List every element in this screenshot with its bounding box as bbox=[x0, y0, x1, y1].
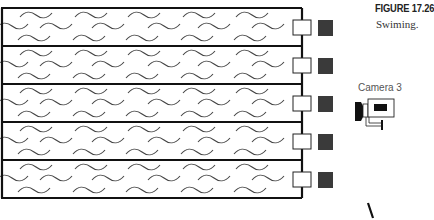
starting-block-4 bbox=[293, 134, 333, 150]
starting-block-5 bbox=[293, 172, 333, 188]
starting-block-2 bbox=[293, 58, 333, 74]
partial-line-mark bbox=[368, 203, 373, 218]
starting-block-1 bbox=[293, 20, 333, 36]
camera-label: Camera 3 bbox=[358, 82, 402, 93]
lane-3 bbox=[0, 88, 284, 117]
lane-1 bbox=[0, 12, 284, 41]
lane-5 bbox=[0, 164, 284, 193]
lane-2 bbox=[0, 50, 284, 79]
starting-block-3 bbox=[293, 96, 333, 112]
figure-title: FIGURE 17.26 bbox=[375, 2, 434, 14]
video-camera-icon bbox=[355, 99, 394, 130]
figure-caption: Swiming. bbox=[376, 18, 418, 30]
lane-4 bbox=[0, 126, 284, 155]
